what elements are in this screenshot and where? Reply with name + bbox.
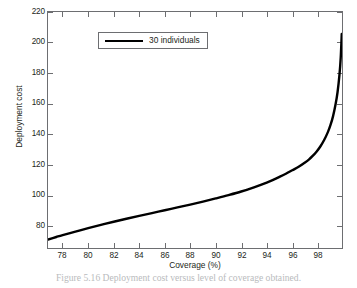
y-tick-label: 200 bbox=[15, 37, 45, 46]
y-tick-label: 80 bbox=[15, 221, 45, 230]
chart-legend[interactable]: 30 individuals bbox=[98, 32, 208, 49]
y-tick-label: 100 bbox=[15, 190, 45, 199]
figure-caption: Figure 5.16 Deployment cost versus level… bbox=[0, 272, 357, 284]
data-series-line bbox=[48, 34, 342, 239]
figure-page: 220 200 180 160 140 120 100 80 Deploymen… bbox=[0, 0, 357, 288]
chart-figure: 220 200 180 160 140 120 100 80 Deploymen… bbox=[0, 0, 357, 270]
x-tick-label: 98 bbox=[303, 251, 333, 260]
legend-line-swatch bbox=[105, 40, 143, 42]
y-tick-label: 220 bbox=[15, 7, 45, 16]
y-axis-title: Deployment cost bbox=[15, 57, 24, 177]
x-axis-title: Coverage (%) bbox=[47, 261, 343, 270]
legend-entry-label: 30 individuals bbox=[149, 36, 200, 45]
plot-area: 30 individuals bbox=[47, 11, 343, 249]
